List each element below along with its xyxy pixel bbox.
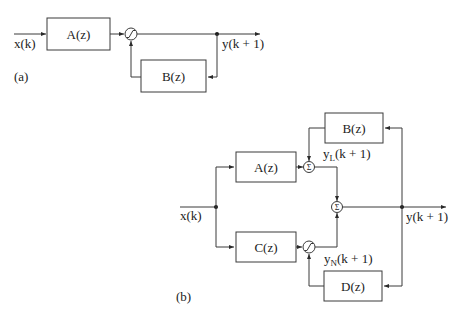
b-block-C: C(z) — [236, 232, 296, 262]
b-sum1-icon: Σ — [304, 162, 315, 173]
b-wire-to-A — [216, 167, 234, 207]
b-input-label: x(k) — [180, 208, 202, 223]
b-output-label: y(k + 1) — [406, 209, 448, 224]
a-output-label: y(k + 1) — [222, 36, 264, 51]
b-block-B: B(z) — [325, 113, 383, 143]
a-block-B-label: B(z) — [162, 69, 185, 84]
a-nonlinear-icon — [125, 28, 137, 40]
b-wire-D-to-nl — [309, 254, 324, 286]
a-block-B: B(z) — [141, 60, 206, 92]
a-feedback-to-B — [208, 34, 217, 77]
b-block-C-label: C(z) — [254, 240, 277, 255]
b-block-D: D(z) — [324, 271, 382, 301]
a-block-A: A(z) — [47, 18, 110, 50]
b-block-D-label: D(z) — [341, 279, 365, 294]
a-block-A-label: A(z) — [67, 27, 91, 42]
b-feedback-to-B — [385, 128, 402, 207]
b-wire-sum1-to-sum2 — [315, 167, 338, 201]
svg-text:Σ: Σ — [307, 163, 312, 172]
a-wire-B-to-nl — [131, 41, 141, 77]
b-diagram-label: (b) — [176, 289, 191, 304]
b-nonlinear-icon — [303, 241, 315, 253]
b-sum2-icon: Σ — [332, 202, 343, 213]
a-diagram-label: (a) — [14, 69, 28, 84]
b-feedback-to-D — [384, 207, 402, 286]
b-yL-label: yL(k + 1) — [323, 146, 371, 163]
b-block-B-label: B(z) — [342, 121, 365, 136]
diagram-a: x(k) A(z) y(k + 1) B(z) (a) — [14, 18, 264, 92]
b-block-A: A(z) — [236, 152, 296, 182]
block-diagram: x(k) A(z) y(k + 1) B(z) (a) x( — [0, 0, 462, 315]
b-wire-nl-to-sum2 — [315, 213, 337, 247]
a-input-label: x(k) — [14, 36, 36, 51]
b-wire-to-C — [216, 207, 234, 247]
svg-text:Σ: Σ — [335, 203, 340, 212]
b-yN-label: yN(k + 1) — [324, 251, 373, 268]
b-block-A-label: A(z) — [254, 160, 278, 175]
diagram-b: x(k) A(z) Σ B(z) yL(k + 1) Σ — [176, 113, 448, 304]
